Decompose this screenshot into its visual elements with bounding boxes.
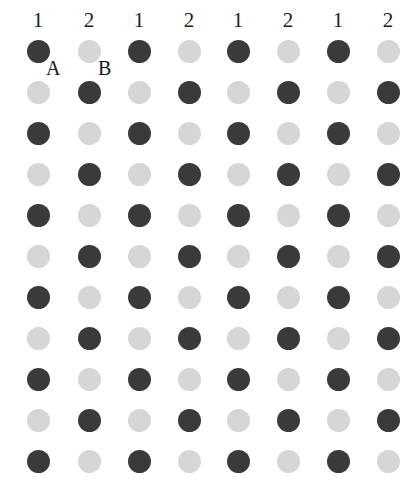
dot-row9-col8-b	[377, 368, 400, 391]
dot-row5-col3-a	[128, 204, 151, 227]
dot-row8-col8-a	[377, 327, 400, 350]
dot-row8-col2-a	[78, 327, 101, 350]
dot-row3-col4-b	[178, 122, 201, 145]
dot-row9-col2-b	[78, 368, 101, 391]
dot-row2-col1-b	[27, 81, 50, 104]
dot-row7-col3-a	[128, 286, 151, 309]
dot-row11-col1-a	[27, 450, 50, 473]
dot-row3-col7-a	[327, 122, 350, 145]
dot-row6-col8-a	[377, 245, 400, 268]
column-header-1: 1	[23, 8, 53, 32]
dot-row4-col3-b	[128, 163, 151, 186]
dot-row9-col1-a	[27, 368, 50, 391]
dot-row7-col6-b	[277, 286, 300, 309]
dot-row3-col2-b	[78, 122, 101, 145]
dot-row8-col5-b	[227, 327, 250, 350]
dot-row2-col2-a	[78, 81, 101, 104]
dot-row4-col8-a	[377, 163, 400, 186]
dot-row9-col4-b	[178, 368, 201, 391]
dot-row11-col3-a	[128, 450, 151, 473]
dot-row5-col5-a	[227, 204, 250, 227]
dot-row11-col6-b	[277, 450, 300, 473]
dot-row10-col4-a	[178, 409, 201, 432]
dot-row5-col7-a	[327, 204, 350, 227]
point-label-a: A	[46, 58, 60, 78]
dot-row2-col8-a	[377, 81, 400, 104]
dot-row2-col3-b	[128, 81, 151, 104]
column-header-6: 2	[273, 8, 303, 32]
dot-row3-col5-a	[227, 122, 250, 145]
dot-row2-col7-b	[327, 81, 350, 104]
dot-row10-col8-a	[377, 409, 400, 432]
column-header-2: 2	[74, 8, 104, 32]
dot-row5-col8-b	[377, 204, 400, 227]
column-header-4: 2	[174, 8, 204, 32]
dot-row3-col8-b	[377, 122, 400, 145]
dot-row7-col1-a	[27, 286, 50, 309]
dot-row8-col6-a	[277, 327, 300, 350]
dot-row5-col1-a	[27, 204, 50, 227]
dot-row9-col6-b	[277, 368, 300, 391]
column-header-5: 1	[223, 8, 253, 32]
dot-row2-col6-a	[277, 81, 300, 104]
lattice-figure: 12121212 AB	[0, 0, 419, 498]
dot-row7-col8-b	[377, 286, 400, 309]
column-header-8: 2	[373, 8, 403, 32]
dot-row1-col8-b	[377, 40, 400, 63]
dot-row6-col5-b	[227, 245, 250, 268]
dot-row6-col3-b	[128, 245, 151, 268]
dot-row3-col3-a	[128, 122, 151, 145]
dot-row9-col3-a	[128, 368, 151, 391]
dot-row4-col5-b	[227, 163, 250, 186]
dot-row1-col6-b	[277, 40, 300, 63]
dot-row5-col2-b	[78, 204, 101, 227]
dot-row4-col2-a	[78, 163, 101, 186]
dot-row7-col7-a	[327, 286, 350, 309]
point-label-b: B	[98, 58, 111, 78]
dot-row5-col4-b	[178, 204, 201, 227]
dot-row6-col6-a	[277, 245, 300, 268]
dot-row9-col5-a	[227, 368, 250, 391]
dot-row3-col1-a	[27, 122, 50, 145]
dot-row8-col1-b	[27, 327, 50, 350]
dot-row4-col4-a	[178, 163, 201, 186]
dot-row10-col6-a	[277, 409, 300, 432]
dot-row4-col6-a	[277, 163, 300, 186]
dot-row9-col7-a	[327, 368, 350, 391]
dot-row11-col8-b	[377, 450, 400, 473]
dot-row8-col3-b	[128, 327, 151, 350]
dot-row8-col7-b	[327, 327, 350, 350]
dot-row11-col5-a	[227, 450, 250, 473]
dot-row10-col3-b	[128, 409, 151, 432]
column-header-3: 1	[124, 8, 154, 32]
dot-row1-col5-a	[227, 40, 250, 63]
dot-row10-col5-b	[227, 409, 250, 432]
dot-row1-col3-a	[128, 40, 151, 63]
column-header-7: 1	[323, 8, 353, 32]
dot-row6-col7-b	[327, 245, 350, 268]
dot-row8-col4-a	[178, 327, 201, 350]
dot-row7-col2-b	[78, 286, 101, 309]
dot-row5-col6-b	[277, 204, 300, 227]
dot-row4-col1-b	[27, 163, 50, 186]
dot-row1-col4-b	[178, 40, 201, 63]
dot-row10-col1-b	[27, 409, 50, 432]
dot-row3-col6-b	[277, 122, 300, 145]
dot-row6-col4-a	[178, 245, 201, 268]
dot-row1-col7-a	[327, 40, 350, 63]
dot-row7-col4-b	[178, 286, 201, 309]
dot-row10-col2-a	[78, 409, 101, 432]
dot-row10-col7-b	[327, 409, 350, 432]
dot-row7-col5-a	[227, 286, 250, 309]
dot-row6-col2-a	[78, 245, 101, 268]
dot-row4-col7-b	[327, 163, 350, 186]
dot-row6-col1-b	[27, 245, 50, 268]
dot-row11-col4-b	[178, 450, 201, 473]
dot-row2-col5-b	[227, 81, 250, 104]
dot-row11-col2-b	[78, 450, 101, 473]
dot-row2-col4-a	[178, 81, 201, 104]
dot-row11-col7-a	[327, 450, 350, 473]
